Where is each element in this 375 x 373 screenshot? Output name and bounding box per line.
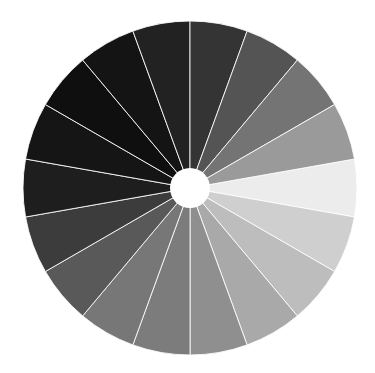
center-hole: [170, 168, 210, 208]
grayscale-wheel: [0, 0, 375, 373]
